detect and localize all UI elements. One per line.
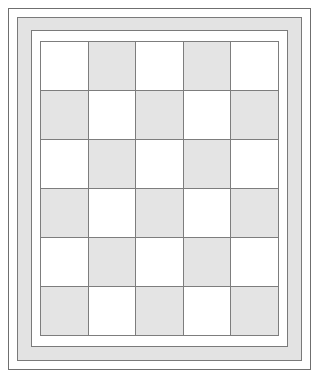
quilt-block-diagram	[0, 0, 319, 377]
patch-cell	[231, 91, 279, 140]
patch-cell	[231, 42, 279, 91]
patch-cell	[231, 287, 279, 336]
patch-cell	[231, 238, 279, 287]
patch-cell	[89, 287, 137, 336]
patch-cell	[184, 140, 232, 189]
patch-cell	[184, 91, 232, 140]
patch-cell	[184, 42, 232, 91]
checkerboard-grid	[40, 41, 279, 336]
patch-cell	[136, 42, 184, 91]
patch-cell	[89, 140, 137, 189]
patch-cell	[184, 238, 232, 287]
patch-cell	[89, 91, 137, 140]
patch-cell	[136, 91, 184, 140]
patch-cell	[41, 287, 89, 336]
patch-cell	[41, 238, 89, 287]
patch-cell	[136, 189, 184, 238]
patch-cell	[184, 189, 232, 238]
patch-cell	[89, 189, 137, 238]
patch-cell	[184, 287, 232, 336]
patch-cell	[41, 140, 89, 189]
patch-cell	[136, 238, 184, 287]
patch-cell	[41, 189, 89, 238]
patch-cell	[89, 42, 137, 91]
patch-cell	[231, 140, 279, 189]
patch-cell	[136, 287, 184, 336]
patch-cell	[136, 140, 184, 189]
patch-cell	[231, 189, 279, 238]
patch-cell	[41, 91, 89, 140]
patch-cell	[41, 42, 89, 91]
patch-cell	[89, 238, 137, 287]
